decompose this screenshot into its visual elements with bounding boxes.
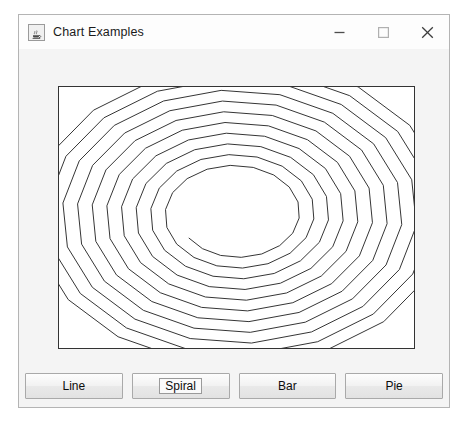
minimize-button[interactable] (317, 15, 361, 49)
chart-drawing-panel[interactable] (58, 86, 415, 349)
java-coffee-cup-icon (28, 24, 45, 41)
window-title: Chart Examples (53, 25, 144, 39)
application-window: Chart Examples (18, 14, 450, 408)
line-button[interactable]: Line (25, 373, 123, 399)
screen: Chart Examples (0, 0, 469, 422)
maximize-button[interactable] (361, 15, 405, 49)
close-button[interactable] (405, 15, 449, 49)
minimize-icon (333, 26, 346, 39)
window-controls (317, 15, 449, 49)
spiral-chart (59, 87, 414, 348)
title-bar[interactable]: Chart Examples (19, 15, 449, 49)
spiral-path (59, 87, 414, 348)
maximize-icon (377, 26, 390, 39)
pie-button[interactable]: Pie (345, 373, 443, 399)
bar-button[interactable]: Bar (239, 373, 337, 399)
line-button-label: Line (58, 379, 91, 393)
bar-button-label: Bar (273, 379, 302, 393)
spiral-button-label: Spiral (159, 378, 202, 394)
button-bar: Line Spiral Bar Pie (25, 373, 443, 399)
close-icon (420, 25, 435, 40)
spiral-button[interactable]: Spiral (132, 373, 230, 399)
content-area: Line Spiral Bar Pie (19, 49, 449, 407)
pie-button-label: Pie (380, 379, 407, 393)
